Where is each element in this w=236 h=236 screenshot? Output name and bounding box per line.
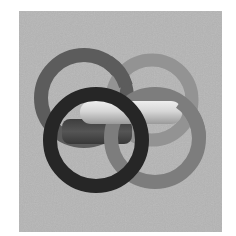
interlocking-rings-illustration	[0, 0, 236, 236]
grain-overlay	[19, 11, 222, 232]
